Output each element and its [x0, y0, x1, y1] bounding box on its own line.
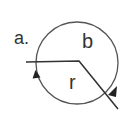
diagram-panel-a: a. b r: [0, 0, 129, 113]
region-label-upper: b: [82, 30, 93, 52]
loop-circle: [36, 22, 118, 104]
panel-label: a.: [14, 28, 29, 48]
left-arrowhead-icon: [31, 69, 40, 78]
region-label-lower: r: [69, 71, 76, 93]
